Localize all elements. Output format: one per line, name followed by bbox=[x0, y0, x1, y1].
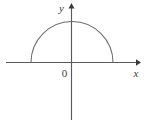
origin-label: 0 bbox=[62, 67, 68, 79]
figure-container: y x 0 bbox=[0, 0, 146, 120]
coordinate-plot-svg: y x 0 bbox=[0, 0, 146, 120]
x-axis-label: x bbox=[133, 67, 139, 79]
x-axis-arrowhead bbox=[136, 59, 141, 65]
y-axis-arrowhead bbox=[69, 3, 75, 9]
y-axis-label: y bbox=[58, 2, 64, 14]
